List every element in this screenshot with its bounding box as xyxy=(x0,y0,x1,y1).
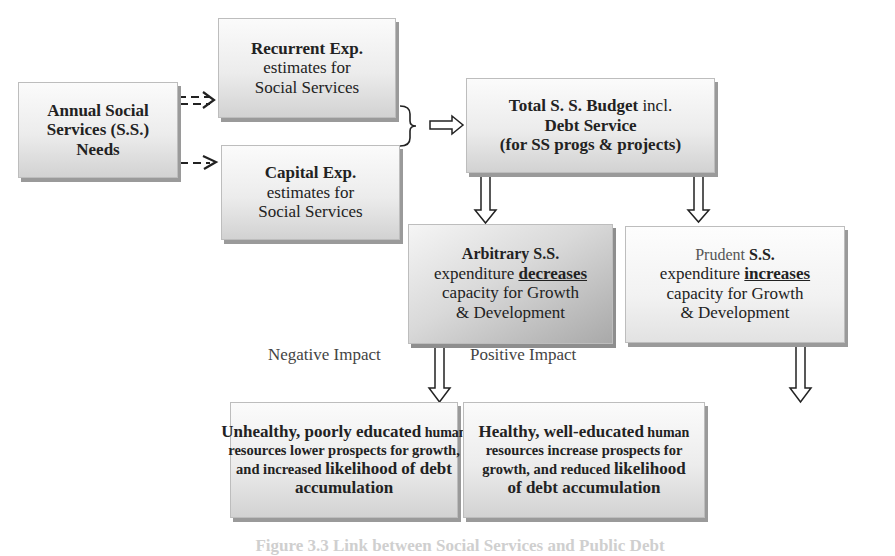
hollow-down-arrow-icon xyxy=(790,346,811,402)
hollow-down-arrow-icon xyxy=(429,346,450,402)
prudent-ss: S.S. xyxy=(745,246,775,263)
hollow-down-arrow-icon xyxy=(475,175,496,223)
capital-title: Capital Exp. xyxy=(265,163,357,183)
unhealthy-lead: Unhealthy, poorly educated xyxy=(221,422,421,441)
recurrent-line3: Social Services xyxy=(255,78,359,98)
prudent-title: Prudent S.S. xyxy=(695,246,775,264)
arbitrary-ss-box: Arbitrary S.S. expenditure decreases cap… xyxy=(408,224,613,344)
unhealthy-human: human xyxy=(421,425,467,440)
unhealthy-line1: Unhealthy, poorly educated human xyxy=(221,422,466,442)
hollow-right-arrow-icon xyxy=(430,116,463,134)
annual-needs-line2: Services (S.S.) xyxy=(47,120,149,140)
arbitrary-expenditure: expenditure xyxy=(434,264,519,283)
prudent-word: Prudent xyxy=(695,246,745,263)
dashed-arrow-to-recurrent xyxy=(178,92,214,108)
prudent-line3: capacity for Growth xyxy=(667,284,804,304)
healthy-outcome-box: Healthy, well-educated human resources i… xyxy=(463,402,705,518)
capital-line2: estimates for xyxy=(267,183,354,203)
prudent-line2: expenditure increases xyxy=(660,264,810,284)
positive-impact-label: Positive Impact xyxy=(470,345,576,365)
total-budget-line2: Debt Service xyxy=(544,116,636,136)
annual-needs-line3: Needs xyxy=(76,140,119,160)
arbitrary-line2: expenditure decreases xyxy=(434,264,587,284)
prudent-line4: & Development xyxy=(680,303,789,323)
hollow-down-arrow-icon xyxy=(688,175,709,222)
brace-connector xyxy=(400,106,416,146)
unhealthy-and-increased: and increased xyxy=(236,461,325,477)
total-budget-incl: incl. xyxy=(638,96,672,115)
arbitrary-title: Arbitrary S.S. xyxy=(462,245,559,263)
healthy-human: human xyxy=(644,425,690,440)
healthy-lead: Healthy, well-educated xyxy=(479,422,644,441)
annual-needs-line1: Annual Social xyxy=(47,101,149,121)
arbitrary-line4: & Development xyxy=(456,303,565,323)
unhealthy-line3: and increased likelihood of debt xyxy=(236,459,452,479)
arbitrary-line3: capacity for Growth xyxy=(442,283,579,303)
healthy-line4: of debt accumulation xyxy=(508,478,661,498)
prudent-expenditure: expenditure xyxy=(660,264,745,283)
total-budget-box: Total S. S. Budget incl. Debt Service (f… xyxy=(466,78,715,173)
healthy-likelihood: likelihood xyxy=(614,459,686,478)
healthy-line3: growth, and reduced likelihood xyxy=(482,459,685,479)
recurrent-title: Recurrent Exp. xyxy=(251,39,363,59)
unhealthy-outcome-box: Unhealthy, poorly educated human resourc… xyxy=(230,402,458,518)
capital-exp-box: Capital Exp. estimates for Social Servic… xyxy=(221,145,400,240)
prudent-increases: increases xyxy=(744,264,810,283)
negative-impact-label: Negative Impact xyxy=(268,345,381,365)
total-budget-title: Total S. S. Budget xyxy=(509,96,638,115)
figure-caption: Figure 3.3 Link between Social Services … xyxy=(230,536,690,556)
capital-line3: Social Services xyxy=(258,202,362,222)
unhealthy-line4: accumulation xyxy=(295,478,393,498)
annual-needs-box: Annual Social Services (S.S.) Needs xyxy=(18,82,178,178)
dashed-arrow-to-capital xyxy=(178,156,216,169)
healthy-growth-reduced: growth, and reduced xyxy=(482,461,614,477)
recurrent-exp-box: Recurrent Exp. estimates for Social Serv… xyxy=(218,18,396,118)
arbitrary-decreases: decreases xyxy=(518,264,587,283)
healthy-line1: Healthy, well-educated human xyxy=(479,422,690,442)
prudent-ss-box: Prudent S.S. expenditure increases capac… xyxy=(625,226,845,343)
unhealthy-line2: resources lower prospects for growth, xyxy=(228,442,460,459)
unhealthy-likelihood: likelihood of debt xyxy=(325,459,452,478)
total-budget-line1: Total S. S. Budget incl. xyxy=(509,96,672,116)
healthy-line2: resources increase prospects for xyxy=(486,442,683,459)
recurrent-line2: estimates for xyxy=(263,58,350,78)
total-budget-line3: (for SS progs & projects) xyxy=(500,135,681,155)
